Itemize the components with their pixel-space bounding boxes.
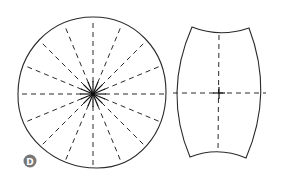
radial-dashed-line xyxy=(98,105,122,162)
badge-label: D xyxy=(26,157,33,167)
radial-dashed-line xyxy=(65,26,89,83)
radial-dashed-line xyxy=(104,99,161,123)
barrel-pattern-piece xyxy=(173,27,266,158)
radial-dashed-line xyxy=(101,102,145,146)
figure-label-badge: D xyxy=(24,155,37,168)
radial-dashed-line xyxy=(25,99,82,123)
circle-pattern-piece xyxy=(18,17,167,168)
center-starburst xyxy=(80,81,106,107)
radial-dashed-line xyxy=(41,102,85,146)
pattern-diagram: D xyxy=(0,0,283,178)
radial-dashed-line xyxy=(41,42,85,86)
radial-dashed-line xyxy=(101,42,145,86)
radial-dashed-line xyxy=(25,66,82,90)
radial-dashed-line xyxy=(65,105,89,162)
radial-dashed-line xyxy=(104,66,161,90)
radial-dashed-line xyxy=(98,26,122,83)
